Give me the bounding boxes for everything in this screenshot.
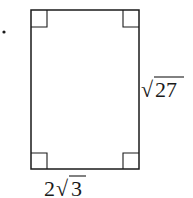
- rectangle: [31, 10, 139, 169]
- radical-sign: √: [141, 77, 154, 102]
- right-angle-marker-top-right: [123, 10, 139, 27]
- rectangle-diagram: √ 27 2 √ 3: [0, 0, 193, 198]
- radicand: 3: [71, 176, 82, 198]
- bullet-dot: [2, 30, 5, 33]
- radicand: 27: [155, 77, 177, 102]
- side-label-bottom: 2 √ 3: [44, 176, 86, 198]
- right-angle-marker-bottom-left: [31, 153, 47, 169]
- coefficient: 2: [44, 176, 55, 198]
- right-angle-marker-bottom-right: [123, 153, 139, 169]
- right-angle-marker-top-left: [31, 10, 47, 27]
- side-label-right: √ 27: [141, 77, 184, 102]
- radical-sign: √: [56, 176, 69, 198]
